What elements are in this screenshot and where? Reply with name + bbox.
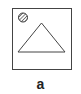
diagram-figure bbox=[0, 0, 81, 70]
figure-label: a bbox=[0, 76, 81, 92]
hatched-circle-icon bbox=[19, 13, 28, 22]
